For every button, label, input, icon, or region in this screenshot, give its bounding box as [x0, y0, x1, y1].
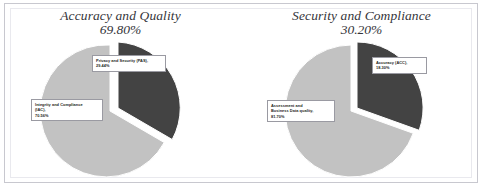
right-label-assessment-and-business-data-quality: Assessment and Business Data quality, 81… [267, 100, 335, 122]
right-chart-subtitle: 30.20% [241, 23, 482, 37]
left-label-privacy-and-security: Privacy and Security (PAS), 29.44% [92, 55, 166, 72]
left-chart-subtitle: 69.80% [0, 23, 241, 37]
right-label-accuracy: Accuracy (ACC), 18.30% [372, 57, 427, 74]
figure-canvas: Accuracy and Quality 69.80% Privacy and … [0, 0, 483, 189]
right-chart-title: Security and Compliance [241, 9, 482, 23]
left-label-integrity-and-compliance: Integrity and Compliance (IAC), 70.56% [31, 99, 103, 121]
pie-chart-accuracy-and-quality: Accuracy and Quality 69.80% Privacy and … [0, 0, 241, 189]
left-chart-title: Accuracy and Quality [0, 9, 241, 23]
pie-chart-security-and-compliance: Security and Compliance 30.20% Accuracy … [241, 0, 482, 189]
